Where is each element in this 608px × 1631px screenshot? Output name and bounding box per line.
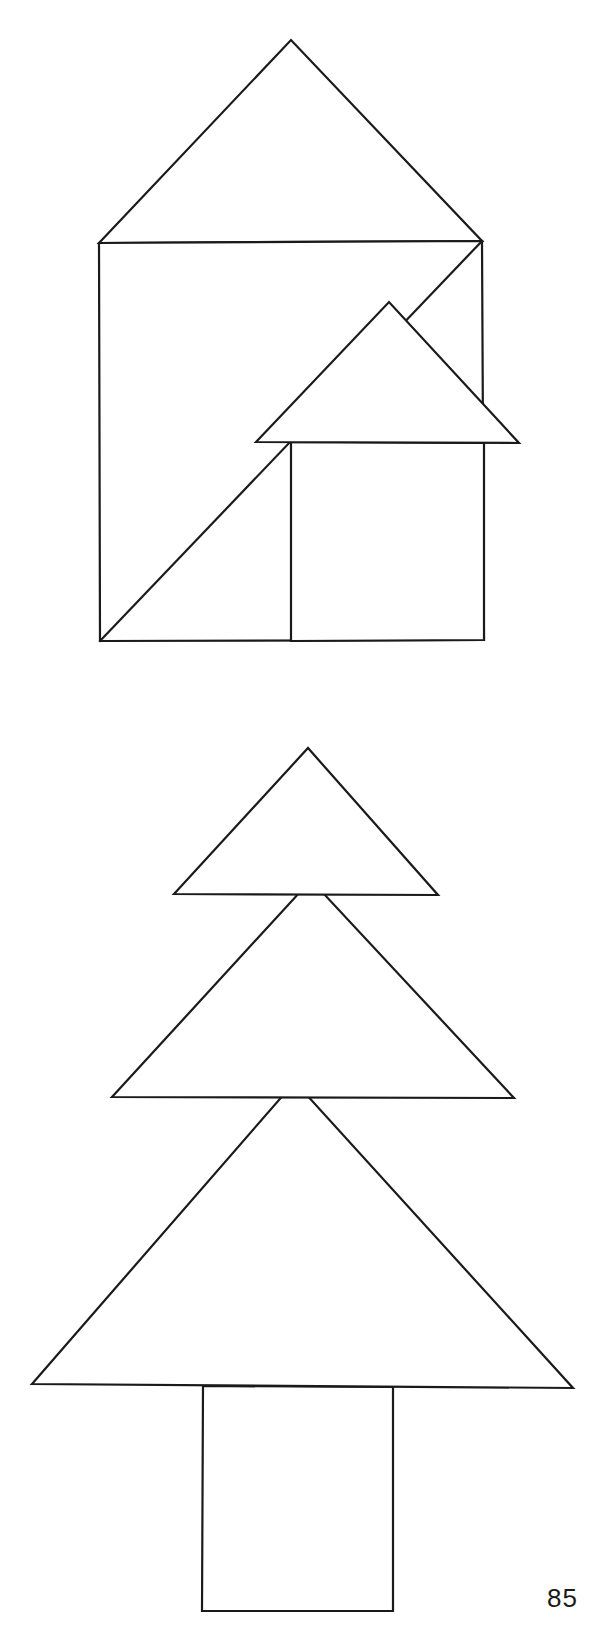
small-house-body (291, 442, 484, 641)
page-number: 85 (547, 1583, 578, 1614)
line-drawing-canvas (0, 0, 608, 1631)
two-houses-figure (99, 40, 519, 641)
tree-bottom-triangle (32, 1093, 573, 1388)
big-house-roof-triangle (99, 40, 482, 243)
tree-trunk (202, 1386, 393, 1611)
document-page: 85 (0, 0, 608, 1631)
tree-figure (32, 748, 573, 1611)
tree-top-triangle (174, 748, 438, 895)
tree-middle-triangle (112, 880, 514, 1098)
